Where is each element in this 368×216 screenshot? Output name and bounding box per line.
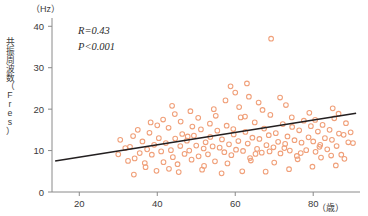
x-tick-label: 40 [152, 198, 163, 209]
data-point [190, 124, 195, 129]
data-point [203, 140, 208, 145]
y-tick-label: 10 [33, 145, 44, 156]
data-point [178, 144, 183, 149]
data-point [271, 145, 276, 150]
data-point [188, 109, 193, 114]
data-point [319, 155, 324, 160]
y-tick-label: 30 [33, 62, 44, 73]
y-axis-unit-label: （Hz） [31, 4, 60, 14]
data-point [245, 141, 250, 146]
data-point [169, 148, 174, 153]
data-point [290, 125, 295, 130]
data-point [219, 171, 224, 176]
data-point [215, 128, 220, 133]
data-point [228, 84, 233, 89]
data-point [257, 137, 262, 142]
data-point [323, 136, 328, 141]
data-point [156, 136, 161, 141]
y-axis-ticks: 010203040 [33, 21, 52, 198]
data-point [268, 113, 273, 118]
data-point [189, 157, 194, 162]
data-point [116, 152, 121, 157]
data-point [344, 121, 349, 126]
x-axis-ticks: 20406080 [74, 192, 319, 209]
data-point [180, 132, 185, 137]
data-point [307, 111, 312, 116]
correlation-annotation: R=0.43 [77, 25, 110, 36]
data-point [309, 124, 314, 129]
data-point [330, 137, 335, 142]
data-point [206, 152, 211, 157]
data-point [224, 123, 229, 128]
data-point [155, 123, 160, 128]
x-axis-unit-label: （歳） [317, 202, 344, 213]
data-point [176, 170, 181, 175]
data-point [256, 100, 261, 105]
data-point [297, 128, 302, 133]
data-point [231, 127, 236, 132]
data-point [148, 120, 153, 125]
data-point [327, 128, 332, 133]
data-point [284, 103, 289, 108]
data-point [132, 172, 137, 177]
data-point [346, 140, 351, 145]
data-point [250, 135, 255, 140]
data-point [333, 163, 338, 168]
data-point [126, 159, 131, 164]
data-point [208, 121, 213, 126]
data-point [313, 149, 318, 154]
data-point [222, 150, 227, 155]
data-point [260, 108, 265, 113]
data-point [173, 136, 178, 141]
data-point [342, 157, 347, 162]
data-point [161, 117, 166, 122]
data-point [171, 155, 176, 160]
data-point [178, 119, 183, 124]
data-point [240, 169, 245, 174]
data-point [311, 139, 316, 144]
data-point [196, 115, 201, 120]
data-point [266, 133, 271, 138]
data-point [225, 161, 230, 166]
x-tick-label: 20 [74, 198, 85, 209]
data-point [299, 140, 304, 145]
data-point [351, 141, 356, 146]
data-point [217, 145, 222, 150]
data-point [175, 162, 180, 167]
x-tick-label: 60 [230, 198, 241, 209]
data-point [278, 95, 283, 100]
data-point [213, 113, 218, 118]
data-point [320, 123, 325, 128]
y-axis-title: 共 振 周 波 数 （ F r e s ） [2, 38, 18, 136]
data-point [253, 152, 258, 157]
data-point [310, 164, 315, 169]
data-point [252, 120, 257, 125]
data-point [292, 138, 297, 143]
data-point [273, 131, 278, 136]
data-point [316, 129, 321, 134]
data-point [145, 147, 150, 152]
data-point [236, 139, 241, 144]
data-point [287, 148, 292, 153]
data-point [241, 149, 246, 154]
data-point [334, 144, 339, 149]
data-point [255, 147, 260, 152]
data-point [348, 130, 353, 135]
data-point [233, 90, 238, 95]
data-point [172, 112, 177, 117]
data-point [196, 154, 201, 159]
plot-canvas: （Hz） R=0.43 P<0.001 010203040 20406080 （… [0, 0, 368, 216]
data-point [289, 115, 294, 120]
y-tick-label: 0 [39, 187, 44, 198]
data-point [220, 137, 225, 142]
data-point [159, 149, 164, 154]
data-point [329, 153, 334, 158]
data-point [161, 160, 166, 165]
data-point [147, 130, 152, 135]
data-point [135, 128, 140, 133]
data-points-group [116, 36, 355, 177]
data-point [304, 148, 309, 153]
data-point [118, 137, 123, 142]
data-point [187, 148, 192, 153]
data-point [211, 107, 216, 112]
